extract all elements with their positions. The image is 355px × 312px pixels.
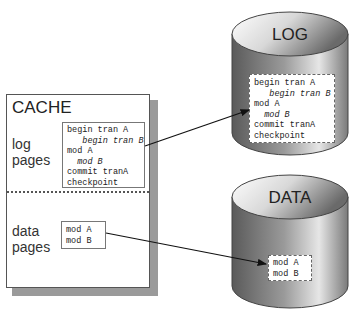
cache-log-entry: mod B <box>67 157 140 168</box>
cache-log-entry: mod A <box>67 146 140 157</box>
cache-log-entry: begin tran A <box>67 125 140 136</box>
data-db-entry: mod B <box>273 269 307 280</box>
cache-data-pages-box: mod Amod B <box>61 221 106 249</box>
log-pages-label: log pages <box>12 136 50 168</box>
data-db-entries-box: mod Amod B <box>268 255 312 281</box>
log-db-entry: mod B <box>254 110 330 121</box>
log-db-entry: begin tran A <box>254 78 330 89</box>
cache-log-pages-box: begin tran A begin tran Bmod A mod Bcomm… <box>62 122 145 188</box>
cache-log-entry: commit tranA <box>67 167 140 178</box>
log-pages-label-line2: pages <box>12 152 50 168</box>
log-db-entry: mod A <box>254 99 330 110</box>
log-db-entries-box: begin tran A begin tran Bmod A mod Bcomm… <box>249 74 335 143</box>
log-db-label: LOG <box>232 25 348 45</box>
data-db-entry: mod A <box>273 258 307 269</box>
cache-title: CACHE <box>12 98 72 118</box>
data-db-label: DATA <box>232 188 348 208</box>
log-db-entry: begin tran B <box>254 89 330 100</box>
log-pages-label-line1: log <box>12 136 50 152</box>
data-pages-label-line1: data <box>12 223 50 239</box>
log-db-entry: commit tranA <box>254 120 330 131</box>
data-pages-label-line2: pages <box>12 239 50 255</box>
cache-log-entry: begin tran B <box>67 136 140 147</box>
cache-data-entry: mod A <box>66 225 101 236</box>
data-pages-label: data pages <box>12 223 50 255</box>
section-divider <box>7 191 149 193</box>
cache-data-entry: mod B <box>66 236 101 247</box>
log-db-entry: checkpoint <box>254 131 330 142</box>
cache-log-entry: checkpoint <box>67 178 140 189</box>
